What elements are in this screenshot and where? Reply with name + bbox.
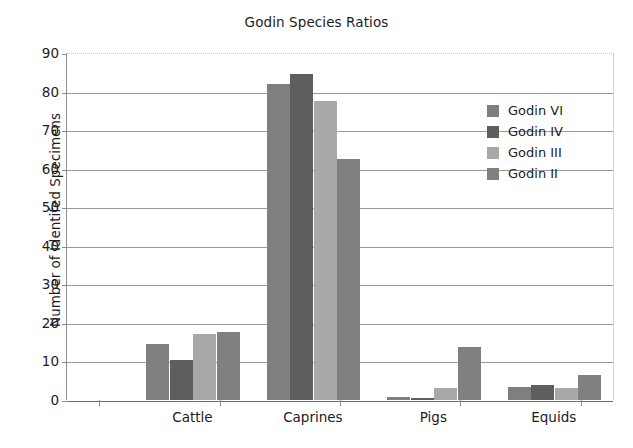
x-tick-mark [99, 400, 100, 406]
legend-swatch-icon [487, 147, 499, 159]
bar-group [387, 54, 481, 400]
y-tick-mark [62, 247, 67, 248]
y-tick-label: 70 [0, 122, 59, 138]
bar [314, 101, 337, 400]
y-tick-label: 20 [0, 315, 59, 331]
bar [458, 347, 481, 400]
bar-group [267, 54, 361, 400]
y-tick-label: 50 [0, 199, 59, 215]
x-axis: CattleCaprinesPigsEquids [66, 400, 614, 401]
y-tick-label: 0 [0, 392, 59, 408]
y-tick-label: 40 [0, 238, 59, 254]
y-tick-mark [62, 93, 67, 94]
legend-item: Godin III [487, 143, 597, 162]
chart-container: Godin Species Ratios Number of Identifed… [0, 0, 633, 448]
y-tick-mark [62, 285, 67, 286]
legend-item: Godin VI [487, 101, 597, 120]
x-tick-mark [340, 400, 341, 406]
bar [578, 375, 601, 400]
y-tick-mark [62, 170, 67, 171]
y-tick-mark [62, 324, 67, 325]
legend-swatch-icon [487, 105, 499, 117]
chart-title: Godin Species Ratios [0, 14, 633, 30]
y-tick-label: 80 [0, 84, 59, 100]
y-tick-label: 30 [0, 276, 59, 292]
legend-label: Godin III [508, 145, 562, 160]
legend-item: Godin IV [487, 122, 597, 141]
bar [531, 385, 554, 400]
bar [170, 360, 193, 400]
bar [146, 344, 169, 400]
y-tick-label: 60 [0, 161, 59, 177]
y-tick-label: 90 [0, 45, 59, 61]
legend-label: Godin II [508, 166, 558, 181]
legend-swatch-icon [487, 168, 499, 180]
y-tick-mark [62, 208, 67, 209]
bar-group [146, 54, 240, 400]
bar [193, 334, 216, 400]
x-tick-mark [460, 400, 461, 406]
x-tick-label: Equids [474, 409, 633, 425]
x-tick-mark [220, 400, 221, 406]
legend-swatch-icon [487, 126, 499, 138]
y-tick-mark [62, 54, 67, 55]
bar [337, 159, 360, 400]
y-tick-mark [62, 401, 67, 402]
legend-item: Godin II [487, 164, 597, 183]
bar [555, 388, 578, 400]
x-tick-mark [581, 400, 582, 406]
bar [434, 388, 457, 400]
legend-label: Godin IV [508, 124, 563, 139]
bar [217, 332, 240, 400]
y-tick-mark [62, 131, 67, 132]
bar [290, 74, 313, 400]
bar [508, 387, 531, 400]
y-tick-mark [62, 362, 67, 363]
y-tick-label: 10 [0, 353, 59, 369]
bar [267, 84, 290, 400]
legend-label: Godin VI [508, 103, 563, 118]
chart-legend: Godin VIGodin IVGodin IIIGodin II [487, 101, 597, 185]
